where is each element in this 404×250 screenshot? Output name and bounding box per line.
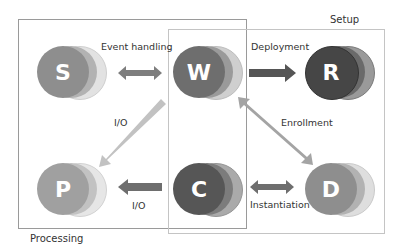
node-p: P xyxy=(37,163,107,215)
arrow-io-diagonal xyxy=(99,99,166,167)
node-w-letter: W xyxy=(173,46,225,98)
edge-label-io-diagonal: I/O xyxy=(114,118,127,128)
node-c-letter: C xyxy=(173,163,225,215)
arrow-io-horizontal xyxy=(118,179,162,195)
arrow-enrollment xyxy=(238,97,313,165)
node-w: W xyxy=(173,46,243,98)
edge-label-io-horizontal: I/O xyxy=(132,201,145,211)
edge-label-instantiation: Instantiation xyxy=(250,200,310,210)
node-s-letter: S xyxy=(37,46,89,98)
node-s: S xyxy=(37,46,107,98)
node-r: R xyxy=(305,46,375,98)
node-d: D xyxy=(305,163,375,215)
edge-label-event-handling: Event handling xyxy=(101,42,172,52)
node-r-letter: R xyxy=(305,46,357,98)
arrow-instantiation xyxy=(250,180,294,194)
node-p-letter: P xyxy=(37,163,89,215)
edge-label-deployment: Deployment xyxy=(251,42,309,52)
arrow-event-handling xyxy=(118,66,162,80)
node-c: C xyxy=(173,163,243,215)
edge-label-enrollment: Enrollment xyxy=(281,118,333,128)
arrow-deployment xyxy=(249,64,296,82)
node-d-letter: D xyxy=(305,163,357,215)
